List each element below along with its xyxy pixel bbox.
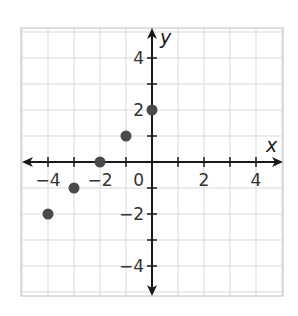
y-tick-label: −2 (119, 204, 144, 224)
y-axis-label: y (159, 26, 172, 48)
x-tick-label: −2 (87, 170, 112, 190)
data-point (121, 131, 132, 142)
origin-label: 0 (133, 170, 144, 190)
x-tick-label: 4 (251, 170, 262, 190)
data-point (147, 105, 158, 116)
y-tick-label: 2 (133, 100, 144, 120)
x-tick-label: 2 (199, 170, 210, 190)
data-point (69, 183, 80, 194)
x-tick-label: −4 (35, 170, 60, 190)
data-point (95, 157, 106, 168)
coordinate-plane: −4−22442−2−4 x y 0 (0, 0, 298, 316)
x-axis-label: x (265, 134, 278, 156)
axes (22, 28, 283, 296)
data-point (43, 209, 54, 220)
y-tick-label: −4 (119, 256, 144, 276)
y-tick-label: 4 (133, 48, 144, 68)
